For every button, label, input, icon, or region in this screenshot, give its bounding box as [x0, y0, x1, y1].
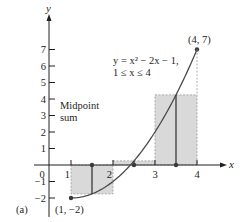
y-tick-label: 7 [41, 44, 46, 55]
y-tick-label: 4 [41, 94, 47, 105]
x-tick-label: 0 [39, 169, 44, 180]
endpoint-label-1-neg2: (1, −2) [55, 204, 84, 216]
y-tick-label: 2 [41, 127, 46, 138]
panel-label: (a) [16, 204, 28, 216]
y-tick-label: 1 [41, 143, 46, 154]
annotation-sum: sum [60, 112, 78, 123]
midpoint-dot-icon [90, 163, 94, 167]
midpoint-sum-chart: x y −2−11234567 01234 (1, −2)(4, 7) y = … [0, 0, 242, 222]
x-axis-label: x [228, 158, 234, 170]
y-axis-arrow-icon [47, 14, 52, 21]
x-tick-label: 1 [65, 169, 70, 180]
x-tick-label: 4 [194, 169, 200, 180]
y-tick-label: −2 [35, 193, 46, 204]
annotation-midpoint: Midpoint [60, 100, 99, 111]
y-tick-label: 6 [41, 61, 46, 72]
midpoint-dot-icon [174, 163, 178, 167]
y-axis-label: y [45, 2, 51, 14]
y-ticks: −2−11234567 [35, 44, 55, 204]
equation-label-line2: 1 ≤ x ≤ 4 [113, 67, 152, 78]
endpoint-label-4-7: (4, 7) [188, 34, 211, 46]
endpoint-dot-icon [69, 196, 73, 200]
midpoint-dot-icon [132, 163, 136, 167]
x-axis-arrow-icon [220, 163, 227, 168]
x-tick-label: 2 [107, 169, 112, 180]
x-tick-label: 3 [152, 169, 157, 180]
y-tick-label: 5 [41, 77, 46, 88]
equation-label-line1: y = x² − 2x − 1, [113, 55, 179, 66]
y-tick-label: 3 [41, 110, 46, 121]
